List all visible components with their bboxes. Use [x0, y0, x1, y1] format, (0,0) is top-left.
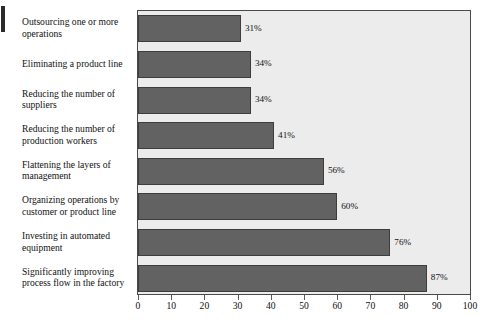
bar-value-label: 34%	[255, 58, 272, 68]
category-label: Eliminating a product line	[22, 51, 129, 75]
category-label: Organizing operations by customer or pro…	[22, 194, 129, 218]
x-axis-tick-label: 90	[432, 300, 442, 311]
bar	[138, 15, 241, 42]
bar	[138, 193, 337, 220]
x-axis-tick-label: 60	[332, 300, 342, 311]
plot-area: 31% 34% 34% 41% 56% 60% 76% 87%	[137, 10, 471, 295]
x-axis-tick-label: 70	[366, 300, 376, 311]
x-axis-tick-label: 50	[299, 300, 309, 311]
bar	[138, 51, 251, 78]
bar	[138, 122, 274, 149]
category-label: Reducing the number of production worker…	[22, 123, 129, 147]
bar-value-label: 34%	[255, 94, 272, 104]
x-axis-tick-label: 80	[399, 300, 409, 311]
bar-value-label: 31%	[245, 23, 262, 33]
x-axis-tick-label: 40	[266, 300, 276, 311]
category-label: Flattening the layers of management	[22, 158, 129, 182]
x-axis-tick-label: 10	[166, 300, 176, 311]
category-label: Reducing the number of suppliers	[22, 87, 129, 111]
category-label-column: Outsourcing one or more operations Elimi…	[0, 10, 133, 295]
bar-value-label: 87%	[431, 272, 448, 282]
bar-value-label: 60%	[341, 201, 358, 211]
bar	[138, 87, 251, 114]
bar-value-label: 56%	[328, 165, 345, 175]
x-axis-tick-label: 30	[233, 300, 243, 311]
bar-value-label: 41%	[278, 130, 295, 140]
bar-value-label: 76%	[394, 237, 411, 247]
x-axis-tick-label: 100	[463, 300, 477, 311]
category-label: Significantly improving process flow in …	[22, 265, 129, 289]
bar	[138, 229, 390, 256]
x-axis-tick-label: 0	[136, 300, 141, 311]
category-label: Outsourcing one or more operations	[22, 16, 129, 40]
category-label: Investing in automated equipment	[22, 230, 129, 254]
bar	[138, 158, 324, 185]
bar	[138, 265, 427, 292]
bar-chart: Outsourcing one or more operations Elimi…	[0, 0, 490, 320]
x-axis-tick-label: 20	[200, 300, 210, 311]
